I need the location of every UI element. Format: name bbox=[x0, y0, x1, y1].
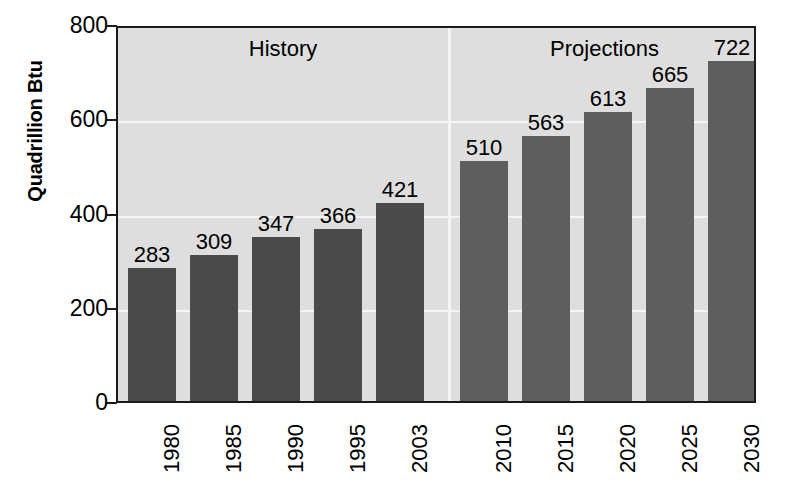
y-tick-label: 200 bbox=[46, 297, 108, 320]
x-tick-label: 2020 bbox=[617, 424, 639, 473]
x-tick-label: 2003 bbox=[409, 424, 431, 473]
x-tick-label: 1985 bbox=[223, 424, 245, 473]
bar[interactable] bbox=[314, 229, 362, 401]
x-tick-label: 1995 bbox=[347, 424, 369, 473]
y-tick-label: 0 bbox=[46, 391, 108, 414]
bar[interactable] bbox=[376, 203, 424, 401]
projections-label: Projections bbox=[451, 36, 756, 62]
x-tick-label: 2015 bbox=[555, 424, 577, 473]
y-axis-tick-labels: 0200400600800 bbox=[46, 0, 108, 489]
history-projection-divider bbox=[448, 28, 451, 401]
bar[interactable] bbox=[646, 88, 694, 401]
y-tick-label: 600 bbox=[46, 108, 108, 131]
bar-value-label: 613 bbox=[575, 88, 641, 110]
bar-value-label: 421 bbox=[367, 179, 433, 201]
bar[interactable] bbox=[522, 136, 570, 401]
bar[interactable] bbox=[190, 255, 238, 401]
x-tick-label: 1990 bbox=[285, 424, 307, 473]
bar[interactable] bbox=[708, 61, 756, 401]
bar-value-label: 283 bbox=[119, 244, 185, 266]
bar[interactable] bbox=[584, 112, 632, 401]
bar-value-label: 309 bbox=[181, 231, 247, 253]
x-tick-label: 2010 bbox=[493, 424, 515, 473]
y-tick-label: 400 bbox=[46, 203, 108, 226]
history-label: History bbox=[118, 36, 448, 62]
bar[interactable] bbox=[252, 237, 300, 401]
bar[interactable] bbox=[460, 161, 508, 401]
x-tick-label: 1980 bbox=[161, 424, 183, 473]
bar[interactable] bbox=[128, 268, 176, 401]
x-tick-label: 2025 bbox=[679, 424, 701, 473]
bar-value-label: 665 bbox=[637, 64, 703, 86]
y-tick-label: 800 bbox=[46, 14, 108, 37]
bar-value-label: 366 bbox=[305, 205, 371, 227]
plot-area: 283309347366421510563613665722 HistoryPr… bbox=[116, 26, 756, 403]
x-tick-label: 2030 bbox=[741, 424, 763, 473]
bar-value-label: 347 bbox=[243, 213, 309, 235]
bar-value-label: 510 bbox=[451, 137, 517, 159]
bar-value-label: 563 bbox=[513, 112, 579, 134]
bar-chart: Quadrillion Btu 0200400600800 2833093473… bbox=[0, 0, 786, 489]
